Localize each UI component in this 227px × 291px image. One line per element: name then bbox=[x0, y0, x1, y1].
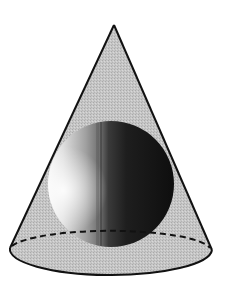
cone-sphere-diagram bbox=[0, 0, 227, 291]
figure-canvas bbox=[0, 0, 227, 291]
